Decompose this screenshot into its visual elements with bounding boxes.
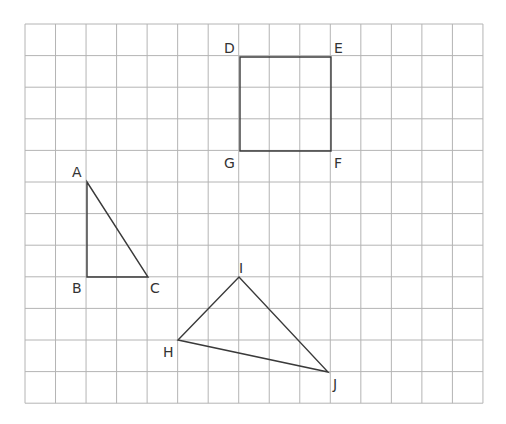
- vertex-label-c: C: [150, 280, 160, 296]
- rectangle-defg: [240, 57, 331, 151]
- vertex-label-e: E: [334, 40, 343, 56]
- vertex-label-f: F: [334, 155, 342, 171]
- triangle-hij: [178, 277, 328, 372]
- vertex-label-a: A: [72, 164, 82, 180]
- vertex-label-g: G: [224, 155, 235, 171]
- vertex-labels: ABCDEFGHIJ: [72, 40, 343, 392]
- vertex-label-j: J: [332, 376, 337, 392]
- square-grid: [25, 24, 483, 403]
- vertex-label-h: H: [163, 344, 174, 360]
- vertex-label-d: D: [224, 40, 235, 56]
- vertex-label-i: I: [239, 260, 243, 276]
- triangle-abc: [87, 182, 148, 277]
- grid-diagram: ABCDEFGHIJ: [0, 0, 506, 424]
- vertex-label-b: B: [72, 280, 82, 296]
